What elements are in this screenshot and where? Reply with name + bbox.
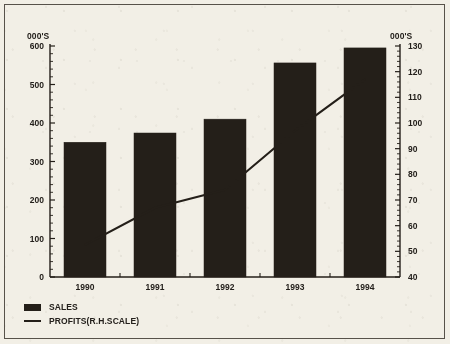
left-tick-label-200: 200 xyxy=(18,195,44,205)
x-axis-label-1992: 1992 xyxy=(205,282,245,292)
right-tick-label-110: 110 xyxy=(408,92,434,102)
left-tick-label-300: 300 xyxy=(18,157,44,167)
right-tick-label-60: 60 xyxy=(408,221,434,231)
legend-line-swatch-icon xyxy=(24,320,41,322)
x-axis-label-1990: 1990 xyxy=(65,282,105,292)
right-tick-label-50: 50 xyxy=(408,246,434,256)
right-tick-label-120: 120 xyxy=(408,67,434,77)
legend-item-sales: SALES xyxy=(24,300,139,314)
legend-item-profits: PROFITS(R.H.SCALE) xyxy=(24,314,139,328)
left-tick-label-0: 0 xyxy=(18,272,44,282)
right-tick-label-130: 130 xyxy=(408,41,434,51)
right-tick-label-40: 40 xyxy=(408,272,434,282)
x-axis-label-1991: 1991 xyxy=(135,282,175,292)
sales-bar-series xyxy=(64,48,386,277)
chart-page: 000'S 000'S 0100200300400500600405060708… xyxy=(0,0,450,344)
right-tick-label-100: 100 xyxy=(408,118,434,128)
chart-legend: SALES PROFITS(R.H.SCALE) xyxy=(24,300,139,328)
chart-plot-area xyxy=(0,0,450,344)
legend-bar-swatch-icon xyxy=(24,304,41,311)
left-tick-label-500: 500 xyxy=(18,80,44,90)
left-tick-label-400: 400 xyxy=(18,118,44,128)
legend-label-profits: PROFITS(R.H.SCALE) xyxy=(49,316,139,326)
legend-label-sales: SALES xyxy=(49,302,78,312)
right-tick-label-90: 90 xyxy=(408,144,434,154)
right-tick-label-80: 80 xyxy=(408,169,434,179)
left-tick-label-100: 100 xyxy=(18,234,44,244)
x-axis-label-1993: 1993 xyxy=(275,282,315,292)
left-tick-label-600: 600 xyxy=(18,41,44,51)
right-tick-label-70: 70 xyxy=(408,195,434,205)
x-axis-label-1994: 1994 xyxy=(345,282,385,292)
